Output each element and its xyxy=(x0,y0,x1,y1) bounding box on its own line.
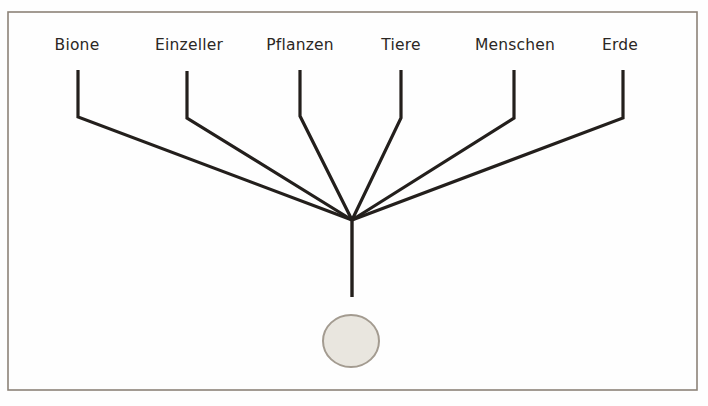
branch-tiere xyxy=(352,70,401,220)
egg-shape xyxy=(323,315,379,367)
figure-container: BioneEinzellerPflanzenTiereMenschenErde xyxy=(0,0,708,406)
branch-einzeller xyxy=(187,71,352,220)
branch-menschen xyxy=(352,70,514,220)
diagram-canvas xyxy=(0,0,708,406)
branch-bione xyxy=(78,70,352,220)
branch-pflanzen xyxy=(300,70,352,220)
branch-erde xyxy=(352,70,623,220)
branch-group xyxy=(78,70,623,220)
